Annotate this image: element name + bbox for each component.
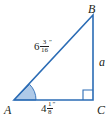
hypotenuse-fraction: 316 [40,39,49,55]
triangle-drawing [0,0,112,124]
base-fraction: 18 [47,101,53,117]
vertex-label-a: A [4,104,11,116]
angle-arc-a [14,84,36,100]
hypotenuse-unit-mark: ″ [49,38,52,46]
hypotenuse-denominator: 16 [40,47,49,54]
mixed-number-hypotenuse: 6316″ [34,39,52,55]
vertical-leg-label: a [99,56,105,68]
base-unit-mark: ″ [53,100,56,108]
right-angle-marker-c [83,90,93,100]
vertex-label-b: B [88,3,95,15]
hypotenuse-whole-part: 6 [34,40,40,52]
geometry-figure: A B C 6316″ 418″ a [0,0,112,124]
base-whole-part: 4 [41,102,47,114]
triangle-outline [14,15,93,100]
hypotenuse-length-label: 6316″ [34,39,52,55]
mixed-number-base: 418″ [41,101,55,117]
vertex-label-c: C [97,104,105,116]
base-length-label: 418″ [41,101,55,117]
base-denominator: 8 [47,109,53,116]
